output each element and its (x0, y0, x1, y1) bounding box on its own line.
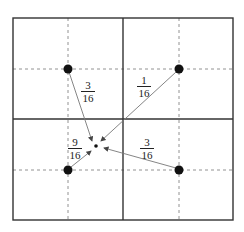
weight-label-top-left: 3 16 (80, 80, 96, 103)
weight-label-bottom-right: 3 16 (139, 137, 155, 160)
sample-dot-bottom-right (175, 166, 184, 175)
sample-dot-top-left (64, 65, 73, 74)
denominator: 16 (136, 88, 152, 98)
weight-label-bottom-left: 9 16 (67, 137, 83, 160)
denominator: 16 (80, 93, 96, 103)
numerator: 3 (139, 137, 155, 147)
pixel-grid (13, 18, 233, 220)
weight-label-top-right: 1 16 (136, 75, 152, 98)
numerator: 9 (67, 137, 83, 147)
sample-dot-bottom-left (64, 166, 73, 175)
denominator: 16 (67, 150, 83, 160)
numerator: 1 (136, 75, 152, 85)
sample-dot-top-right (175, 65, 184, 74)
denominator: 16 (139, 150, 155, 160)
numerator: 3 (80, 80, 96, 90)
diagram-canvas (0, 0, 244, 232)
target-point (94, 144, 98, 148)
